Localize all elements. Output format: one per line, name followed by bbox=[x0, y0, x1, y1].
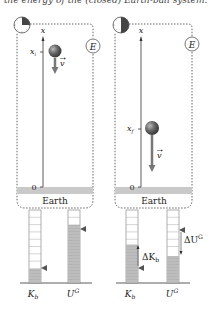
earth-label: Earth bbox=[141, 196, 167, 206]
position-label: xf bbox=[127, 124, 135, 135]
earth-label: Earth bbox=[42, 196, 68, 206]
kinetic-energy-bar bbox=[29, 210, 47, 283]
kinetic-energy-bar: ΔKb bbox=[126, 210, 159, 283]
ball bbox=[145, 121, 159, 135]
axis-label: x bbox=[139, 26, 144, 35]
marker-icon bbox=[41, 265, 47, 271]
origin-label: 0 bbox=[129, 183, 134, 192]
ball bbox=[49, 45, 62, 58]
clock-icon bbox=[113, 17, 129, 33]
potential-energy-bar: ΔUG bbox=[167, 210, 203, 283]
earth-surface bbox=[17, 187, 93, 194]
kb-label: Kb bbox=[124, 289, 136, 300]
earth-surface bbox=[115, 187, 192, 194]
energy-bar-chart-final: ΔKb ΔUG Kb UG bbox=[116, 210, 203, 300]
ug-label: UG bbox=[166, 287, 179, 299]
delta-ug-label: ΔUG bbox=[184, 233, 203, 245]
system-label: E bbox=[89, 42, 97, 52]
initial-marker-icon bbox=[138, 265, 144, 271]
system-label: E bbox=[188, 40, 196, 50]
axis-label: x bbox=[41, 26, 46, 35]
position-label: xi bbox=[30, 47, 37, 57]
kb-label: Kb bbox=[27, 289, 39, 300]
velocity-label: v bbox=[60, 59, 65, 68]
potential-energy-bar bbox=[68, 210, 86, 283]
energy-diagram: E x xi v 0 Earth bbox=[0, 0, 216, 311]
velocity-label: v bbox=[157, 151, 162, 160]
ug-label: UG bbox=[67, 287, 80, 299]
panel-final: E x xf v 0 Earth bbox=[113, 17, 199, 208]
system-boundary bbox=[30, 24, 93, 38]
initial-marker-icon bbox=[179, 227, 185, 233]
panel-initial: E x xi v 0 Earth bbox=[14, 17, 100, 208]
origin-label: 0 bbox=[31, 183, 36, 192]
delta-kb-label: ΔKb bbox=[142, 252, 159, 263]
energy-bar-chart-initial: Kb UG bbox=[20, 210, 92, 300]
marker-icon bbox=[80, 226, 86, 232]
clock-icon bbox=[14, 17, 30, 33]
system-boundary bbox=[115, 33, 192, 208]
